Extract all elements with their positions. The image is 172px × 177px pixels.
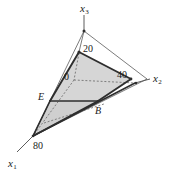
point-label-E: E — [38, 92, 44, 102]
vertex-dot-40 — [130, 78, 133, 81]
intercept-label-x3: 20 — [83, 44, 93, 54]
vertex-dot-20 — [78, 51, 81, 54]
figure-container: x3 x2 x1 20 40 80 0 E B — [0, 0, 172, 177]
vertex-dot-x1-corner — [32, 135, 35, 138]
point-label-B: B — [95, 106, 101, 116]
axis-label-x2-sub: 2 — [158, 78, 162, 86]
intercept-label-x1: 80 — [33, 141, 43, 151]
axis-label-x3-sub: 3 — [85, 8, 89, 16]
axis-label-x2: x2 — [153, 73, 162, 86]
axis-label-x3: x3 — [80, 3, 89, 16]
origin-label: 0 — [64, 72, 69, 82]
axis-line-x1 — [17, 136, 33, 152]
intercept-label-x2: 40 — [117, 70, 127, 80]
axis-label-x1-sub: 1 — [13, 163, 17, 171]
axis-label-x1: x1 — [8, 158, 17, 171]
vertex-dot-apex — [83, 30, 86, 33]
coordinate-diagram-svg — [0, 0, 172, 177]
vertex-dot-x2-tip — [135, 82, 137, 84]
